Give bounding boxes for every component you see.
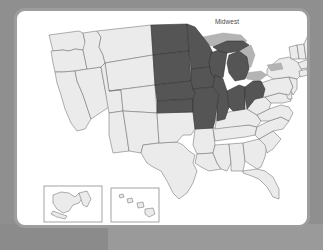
hawaii-inset [111,188,159,222]
alaska-inset [44,186,102,222]
map-card: Midwest [14,8,310,228]
state-oklahoma[interactable] [157,112,195,143]
state-missouri[interactable] [193,87,219,129]
state-florida[interactable] [243,169,279,199]
state-north-dakota[interactable] [151,24,189,55]
state-arkansas[interactable] [193,128,215,154]
hawaii-inset-box [111,188,159,222]
state-wisconsin[interactable] [209,49,227,79]
state-south-dakota[interactable] [153,51,191,85]
state-washington[interactable] [49,31,87,51]
state-indiana[interactable] [227,85,245,111]
hawaii-oahu[interactable] [127,198,133,203]
state-kansas[interactable] [157,99,193,113]
map-svg: Midwest [17,11,310,225]
us-choropleth-map: Midwest [17,11,307,225]
state-rhode-island[interactable] [307,68,310,74]
hawaii-kauai[interactable] [119,194,124,198]
lake-erie [245,71,267,81]
state-oregon[interactable] [51,49,87,72]
region-label: Midwest [215,18,239,25]
state-alabama[interactable] [229,143,245,171]
hawaii-maui[interactable] [137,202,144,208]
